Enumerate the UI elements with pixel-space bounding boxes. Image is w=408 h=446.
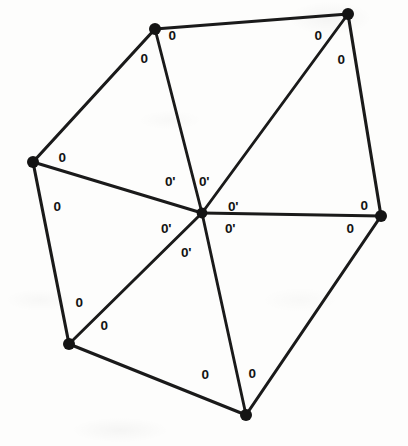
vertex-dot-top-right-vertex xyxy=(342,8,354,20)
vertex-dot-bottom-vertex xyxy=(240,409,252,421)
edge-v5-v6 xyxy=(33,162,69,344)
edge-v4-v5 xyxy=(69,344,246,415)
angle-label-l12: 0 xyxy=(53,200,60,214)
angle-label-l01: 0 xyxy=(168,29,175,43)
angle-label-l05: 0 xyxy=(360,199,367,213)
angle-label-l17: 0' xyxy=(161,222,171,236)
edge-v3-v4 xyxy=(246,216,381,415)
angle-label-l04: 0 xyxy=(337,53,344,67)
spoke-c-v1 xyxy=(155,29,202,213)
angle-label-l15: 0' xyxy=(228,200,238,214)
spoke-c-v2 xyxy=(202,14,348,213)
angle-label-l16: 0' xyxy=(225,222,235,236)
angle-label-l06: 0 xyxy=(346,222,353,236)
angle-label-l11: 0 xyxy=(58,151,65,165)
angle-label-l07: 0 xyxy=(201,368,208,382)
vertex-dot-bottom-left-vertex xyxy=(63,338,75,350)
angle-label-l10: 0 xyxy=(100,319,107,333)
vertex-dot-top-left-vertex xyxy=(149,23,161,35)
angle-label-l18: 0' xyxy=(181,246,191,260)
vertex-dot-center-vertex xyxy=(197,208,208,219)
angle-label-l13: 0' xyxy=(165,175,175,189)
geometry-diagram-canvas: 0000000000000'0'0'0'0'0' xyxy=(0,0,408,446)
vertex-dot-right-vertex xyxy=(375,210,387,222)
angle-label-l02: 0 xyxy=(140,52,147,66)
angle-label-l03: 0 xyxy=(314,29,321,43)
spoke-c-v5 xyxy=(69,213,202,344)
angle-label-l14: 0' xyxy=(199,175,209,189)
angle-label-l08: 0 xyxy=(248,367,255,381)
edge-v1-v2 xyxy=(155,14,348,29)
edge-v6-v1 xyxy=(33,29,155,162)
edge-v2-v3 xyxy=(348,14,381,216)
vertex-dot-left-vertex xyxy=(27,156,39,168)
spoke-c-v4 xyxy=(202,213,246,415)
angle-label-l09: 0 xyxy=(75,296,82,310)
